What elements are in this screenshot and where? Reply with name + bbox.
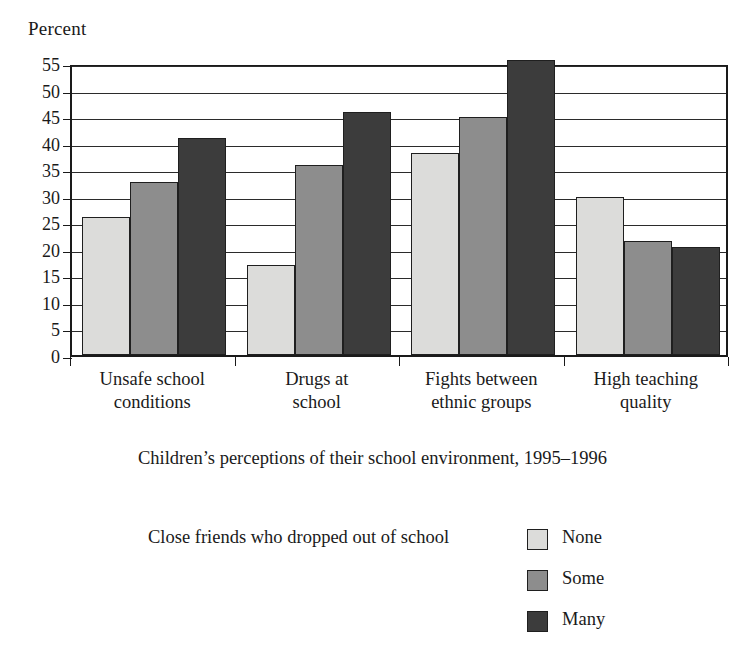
x-axis-category-label: High teachingquality: [541, 368, 745, 414]
bar-some-4: [624, 241, 672, 355]
y-axis-label: 15: [26, 268, 60, 286]
y-axis-tick: [63, 146, 72, 147]
y-axis-tick: [63, 225, 72, 226]
y-axis-tick: [63, 252, 72, 253]
y-axis-label: 0: [26, 348, 60, 366]
gridline: [72, 119, 726, 120]
bar-none-2: [247, 265, 295, 355]
gridline: [72, 172, 726, 173]
y-axis-label: 50: [26, 83, 60, 101]
y-axis-label: 45: [26, 109, 60, 127]
y-axis-label: 5: [26, 321, 60, 339]
bar-some-1: [130, 182, 178, 355]
bar-many-3: [507, 60, 555, 355]
legend-swatch-many: [527, 611, 548, 632]
y-axis-label: 40: [26, 136, 60, 154]
y-axis-label: 10: [26, 295, 60, 313]
x-axis-tick: [728, 357, 729, 366]
y-axis-tick: [63, 93, 72, 94]
x-axis-tick: [235, 357, 236, 366]
gridline: [72, 146, 726, 147]
gridline: [72, 93, 726, 94]
legend-label-none: None: [562, 527, 602, 548]
y-axis-label: 30: [26, 189, 60, 207]
legend-swatch-none: [527, 529, 548, 550]
legend-title: Close friends who dropped out of school: [148, 527, 449, 548]
y-axis-tick: [63, 199, 72, 200]
x-axis-tick: [70, 357, 71, 366]
y-axis-tick: [63, 305, 72, 306]
bar-many-2: [343, 112, 391, 355]
x-axis-tick: [564, 357, 565, 366]
category-label-line1: High teaching: [541, 368, 745, 391]
y-axis-title: Percent: [28, 18, 86, 40]
y-axis-label: 25: [26, 215, 60, 233]
plot-area: [70, 65, 728, 357]
y-axis-label: 55: [26, 56, 60, 74]
y-axis-tick: [63, 119, 72, 120]
gridline: [72, 66, 726, 67]
bar-none-4: [576, 197, 624, 355]
y-axis-label: 35: [26, 162, 60, 180]
bar-none-1: [82, 217, 130, 355]
x-axis-tick: [399, 357, 400, 366]
y-axis-tick: [63, 66, 72, 67]
legend-label-many: Many: [562, 609, 605, 630]
legend-label-some: Some: [562, 568, 604, 589]
legend-swatch-some: [527, 570, 548, 591]
y-axis-tick: [63, 331, 72, 332]
chart-caption: Children’s perceptions of their school e…: [0, 448, 745, 469]
y-axis-tick: [63, 172, 72, 173]
bar-many-4: [672, 247, 720, 355]
y-axis-tick: [63, 278, 72, 279]
bar-chart-figure: Percent Children’s perceptions of their …: [0, 0, 745, 657]
category-label-line2: quality: [541, 391, 745, 414]
bar-none-3: [411, 153, 459, 355]
y-axis-label: 20: [26, 242, 60, 260]
bar-many-1: [178, 138, 226, 355]
bar-some-2: [295, 165, 343, 355]
bar-some-3: [459, 117, 507, 355]
